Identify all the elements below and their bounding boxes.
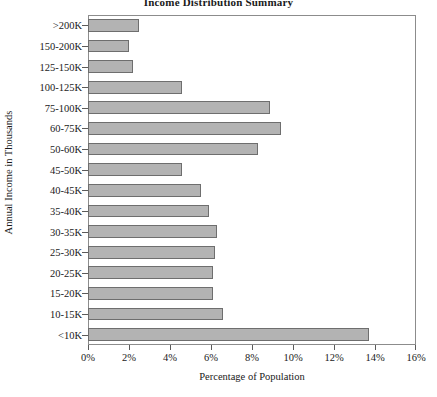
bar [88, 122, 281, 135]
y-axis-tick-mark [82, 314, 88, 315]
x-axis-tick-mark [88, 345, 89, 350]
y-axis-tick-mark [82, 211, 88, 212]
x-axis-tick-label: 4% [148, 352, 192, 363]
bar [88, 308, 223, 321]
x-axis-tick-label: 8% [230, 352, 274, 363]
x-axis-tick-mark [252, 345, 253, 350]
y-axis-tick-mark [82, 46, 88, 47]
bars-layer [88, 15, 416, 345]
x-axis-tick-labels: 0%2%4%6%8%10%12%14%16% [88, 352, 416, 368]
bar [88, 40, 129, 53]
y-axis-tick-label: 100-125K [16, 82, 82, 93]
x-axis-tick-mark [293, 345, 294, 350]
y-axis-tick-mark [82, 67, 88, 68]
x-axis-tick-label: 2% [107, 352, 151, 363]
bar [88, 266, 213, 279]
y-axis-tick-mark [82, 335, 88, 336]
y-axis-tick-label: 150-200K [16, 40, 82, 51]
bar [88, 101, 270, 114]
x-axis-tick-mark [211, 345, 212, 350]
y-axis-tick-mark [82, 87, 88, 88]
x-axis-tick-label: 14% [353, 352, 397, 363]
x-axis-tick-marks [88, 345, 416, 351]
y-axis-tick-mark [82, 108, 88, 109]
x-axis-tick-label: 16% [394, 352, 437, 363]
bar [88, 60, 133, 73]
y-axis-tick-mark [82, 149, 88, 150]
y-axis-tick-label: 45-50K [16, 164, 82, 175]
x-axis-tick-mark [334, 345, 335, 350]
x-axis-tick-label: 0% [66, 352, 110, 363]
y-axis-tick-label: 75-100K [16, 102, 82, 113]
y-axis-tick-mark [82, 25, 88, 26]
y-axis-tick-mark [82, 170, 88, 171]
y-axis-tick-label: 60-75K [16, 123, 82, 134]
chart-title: Income Distribution Summary [0, 0, 437, 8]
y-axis-tick-label: 25-30K [16, 247, 82, 258]
y-axis-tick-label: 20-25K [16, 267, 82, 278]
y-axis-tick-mark [82, 273, 88, 274]
y-axis-tick-label: 10-15K [16, 309, 82, 320]
y-axis-tick-mark [82, 190, 88, 191]
bar [88, 225, 217, 238]
y-axis-tick-label: 35-40K [16, 205, 82, 216]
income-distribution-chart: Income Distribution Summary Annual Incom… [0, 0, 437, 397]
bar [88, 143, 258, 156]
x-axis-tick-mark [129, 345, 130, 350]
y-axis-tick-label: 40-45K [16, 185, 82, 196]
x-axis-tick-label: 12% [312, 352, 356, 363]
y-axis-tick-label: >200K [16, 20, 82, 31]
y-axis-tick-mark [82, 252, 88, 253]
y-axis-tick-label: <10K [16, 329, 82, 340]
y-axis-tick-mark [82, 293, 88, 294]
bar [88, 163, 182, 176]
bar [88, 287, 213, 300]
y-axis-tick-labels: >200K150-200K125-150K100-125K75-100K60-7… [14, 15, 82, 345]
bar [88, 19, 139, 32]
y-axis-tick-label: 50-60K [16, 144, 82, 155]
x-axis-tick-mark [375, 345, 376, 350]
x-axis-tick-mark [170, 345, 171, 350]
x-axis-tick-label: 6% [189, 352, 233, 363]
x-axis-tick-mark [415, 345, 416, 350]
y-axis-tick-mark [82, 128, 88, 129]
bar [88, 328, 369, 341]
y-axis-tick-mark [82, 232, 88, 233]
y-axis-tick-label: 125-150K [16, 61, 82, 72]
x-axis-tick-label: 10% [271, 352, 315, 363]
x-axis-title: Percentage of Population [88, 371, 416, 382]
y-axis-tick-label: 30-35K [16, 226, 82, 237]
bar [88, 246, 215, 259]
bar [88, 184, 201, 197]
bar [88, 81, 182, 94]
y-axis-tick-label: 15-20K [16, 288, 82, 299]
bar [88, 205, 209, 218]
